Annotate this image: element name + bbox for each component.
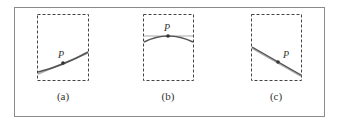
point-label: P: [57, 49, 64, 60]
panel-a: P: [38, 15, 89, 81]
curve: [252, 47, 301, 75]
point-p: [166, 34, 170, 38]
caption-c: (c): [256, 90, 296, 102]
point-p: [61, 61, 65, 65]
caption-b: (b): [148, 90, 188, 102]
point-label: P: [163, 22, 170, 33]
point-label: P: [282, 49, 289, 60]
point-p: [276, 60, 280, 64]
panel-c: P: [252, 15, 302, 81]
panel-b: P: [144, 15, 194, 81]
figure-canvas: P P P: [0, 0, 339, 125]
caption-a: (a): [43, 90, 83, 102]
